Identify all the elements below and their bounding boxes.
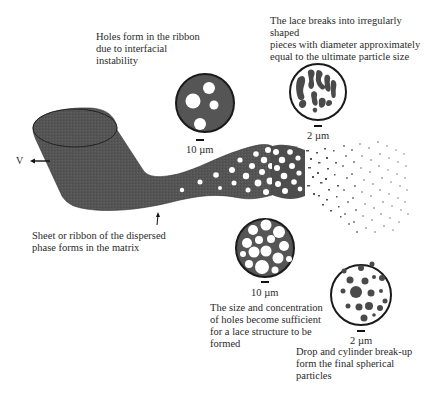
lace-to-particles-spray xyxy=(272,141,409,233)
inset-drops-circle xyxy=(331,262,391,332)
dispersion-mechanism-diagram: V Holes form in the ribbon due to interf… xyxy=(0,0,429,395)
inset-holes-circle xyxy=(176,74,234,140)
inset-lace-circle xyxy=(236,219,294,282)
caption-lace-structure: The size and concentration of holes beco… xyxy=(210,302,323,350)
velocity-label: V xyxy=(16,155,23,166)
ribbon-sheet xyxy=(33,108,272,211)
scale-label-drops: 2 µm xyxy=(350,335,372,346)
scale-label-holes: 10 µm xyxy=(186,144,213,155)
caption-holes-form: Holes form in the ribbon due to interfac… xyxy=(96,31,200,67)
caption-lace-breaks: The lace breaks into irregularly shaped … xyxy=(270,15,429,63)
inset-irregular-circle xyxy=(290,64,346,126)
caption-sheet-forms: Sheet or ribbon of the dispersed phase f… xyxy=(32,230,166,254)
sheet-pointer-arrow-icon xyxy=(156,212,160,225)
scale-label-lace: 10 µm xyxy=(251,287,278,298)
scale-label-irregular: 2 µm xyxy=(307,130,329,141)
caption-final-particles: Drop and cylinder break-up form the fina… xyxy=(296,346,412,382)
